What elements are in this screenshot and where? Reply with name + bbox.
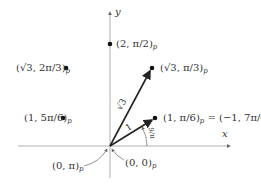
label-origin-pi: (0, π)p <box>52 161 84 173</box>
x-axis-label: x <box>222 128 228 139</box>
point-p2 <box>150 66 155 71</box>
label-p2: (√3, π/3)p <box>160 63 208 75</box>
y-axis-label: y <box>115 6 121 17</box>
angle-label: π/6 <box>148 127 156 138</box>
vector-sqrt3 <box>110 71 150 146</box>
origin-arrow-left <box>84 149 107 166</box>
label-origin-zero: (0, 0)p <box>125 158 156 170</box>
label-p5: (1, π/6)p = (−1, 7π/6) <box>163 113 261 125</box>
label-p3: (√3, 2π/3)p <box>16 63 70 75</box>
label-p4: (1, 5π/6)p <box>24 113 72 125</box>
angle-arc <box>142 127 147 146</box>
point-p1 <box>108 42 113 47</box>
point-p5 <box>153 116 158 121</box>
label-p1: (2, π/2)p <box>116 39 157 51</box>
origin-arrow-right <box>112 149 124 160</box>
